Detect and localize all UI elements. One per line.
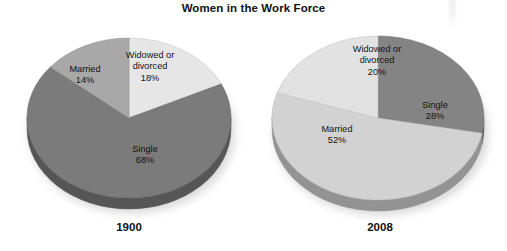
pie-2008-year-label: 2008 [258,221,502,233]
pie-1900-year-label: 1900 [8,221,250,233]
pie-2008-graphic [258,22,502,222]
chart-title: Women in the Work Force [0,2,507,14]
pie-chart-2008: Widowed or divorced 20% Single 28% Marri… [258,22,502,251]
pie-chart-1900: Married 14% Widowed or divorced 18% Sing… [8,22,250,251]
pie-slice-single [378,36,484,133]
chart-figure: Women in the Work Force Married 14% Wido… [0,0,507,251]
pie-1900-graphic [8,22,250,222]
